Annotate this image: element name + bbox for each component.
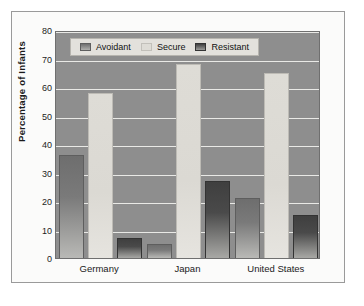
y-tick-label-20: 20 xyxy=(8,198,52,207)
legend-label-resistant: Resistant xyxy=(211,42,249,52)
y-tick-label-0: 0 xyxy=(8,255,52,264)
y-tick-label-70: 70 xyxy=(8,55,52,64)
bar-united-states-resistant xyxy=(293,215,318,258)
legend-label-secure: Secure xyxy=(157,42,186,52)
y-tick-label-80: 80 xyxy=(8,27,52,36)
chart-figure: Percentage of Infants 01020304050607080 … xyxy=(0,0,364,306)
resistant-swatch-icon xyxy=(195,43,206,51)
gridline-70 xyxy=(56,61,319,62)
bar-japan-resistant xyxy=(205,181,230,258)
chart-legend: Avoidant Secure Resistant xyxy=(70,38,259,56)
bar-germany-resistant xyxy=(117,238,142,258)
x-tick-label-germany: Germany xyxy=(80,263,119,274)
bar-japan-avoidant xyxy=(147,244,172,258)
x-tick-label-japan: Japan xyxy=(175,263,201,274)
plot-area: Avoidant Secure Resistant xyxy=(55,31,320,259)
y-tick-label-60: 60 xyxy=(8,84,52,93)
y-tick-label-10: 10 xyxy=(8,226,52,235)
y-tick-label-40: 40 xyxy=(8,141,52,150)
bar-united-states-avoidant xyxy=(235,198,260,258)
legend-entry-secure: Secure xyxy=(141,42,186,52)
gridline-80 xyxy=(56,32,319,33)
avoidant-swatch-icon xyxy=(80,43,91,51)
bar-germany-avoidant xyxy=(59,155,84,258)
secure-swatch-icon xyxy=(141,43,152,51)
legend-label-avoidant: Avoidant xyxy=(96,42,131,52)
legend-entry-avoidant: Avoidant xyxy=(80,42,131,52)
x-axis-tick-labels: GermanyJapanUnited States xyxy=(55,263,320,279)
bar-germany-secure xyxy=(88,93,113,258)
y-tick-label-30: 30 xyxy=(8,169,52,178)
y-axis-tick-labels: 01020304050607080 xyxy=(4,31,52,259)
bar-japan-secure xyxy=(176,64,201,258)
legend-entry-resistant: Resistant xyxy=(195,42,249,52)
bar-united-states-secure xyxy=(264,73,289,258)
y-tick-label-50: 50 xyxy=(8,112,52,121)
x-tick-label-united-states: United States xyxy=(247,263,304,274)
